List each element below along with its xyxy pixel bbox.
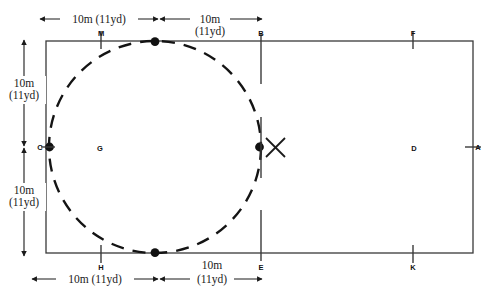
penalty-spot-x-mark [266, 138, 285, 157]
point-label-e: E [258, 263, 263, 272]
left-upper-dim-label-line2: (11yd) [9, 89, 39, 102]
top-left-dim-label: 10m (11yd) [72, 13, 126, 26]
point-label-f: F [411, 29, 416, 38]
point-label-a: A [475, 143, 481, 152]
left-dimension-lower: 10m (11yd) [2, 148, 46, 256]
top-dimension-right: 10m (11yd) [160, 11, 262, 38]
circle-dots [45, 37, 264, 257]
top-right-dim-label-line1: 10m [200, 13, 221, 25]
zone-label-g: G [97, 144, 103, 153]
left-dimension-upper: 10m (11yd) [2, 40, 46, 146]
left-lower-dim-label-line2: (11yd) [9, 196, 39, 209]
bottom-dimension-right: 10m (11yd) [160, 259, 262, 286]
bottom-right-dim-label-line2: (11yd) [197, 273, 227, 286]
left-lower-dim-label-line1: 10m [14, 184, 35, 196]
circle-bottom-dot [151, 248, 160, 257]
field-diagram: 10m (11yd) 10m (11yd) 10m (11yd) 10m (11… [0, 0, 486, 295]
bottom-dimension-left: 10m (11yd) [32, 271, 158, 286]
point-label-k: K [410, 263, 416, 272]
zone-label-d: D [411, 144, 417, 153]
top-right-dim-label-line2: (11yd) [195, 25, 225, 38]
point-label-c: C [37, 143, 43, 152]
circle-outline [49, 41, 261, 253]
circle-right-dot [255, 143, 264, 152]
left-upper-dim-label-line1: 10m [14, 77, 35, 89]
bottom-left-dim-label: 10m (11yd) [68, 273, 122, 286]
bottom-right-dim-label-line1: 10m [202, 259, 223, 271]
circle-top-dot [151, 37, 160, 46]
top-dimension-left: 10m (11yd) [40, 11, 158, 26]
dashed-circle [49, 41, 261, 253]
point-label-b: B [258, 29, 264, 38]
point-label-m: M [98, 29, 104, 38]
point-label-h: H [98, 263, 103, 272]
field-diagram-svg: 10m (11yd) 10m (11yd) 10m (11yd) 10m (11… [0, 0, 486, 295]
